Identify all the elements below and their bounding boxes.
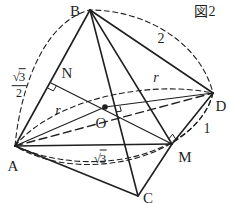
edge-label-bd: 2: [158, 32, 165, 46]
right-angle-mark-n: [48, 86, 56, 91]
radicand: 3: [19, 68, 26, 83]
edge-ac: [15, 146, 138, 196]
distance-label-an: √3 2: [12, 68, 27, 100]
circle-abd-dashed: [15, 10, 213, 162]
radicand: 3: [100, 150, 107, 165]
segment-od: [105, 93, 213, 107]
diagram-svg: [0, 0, 230, 203]
edge-md: [172, 93, 213, 144]
vertex-label-a: A: [8, 159, 19, 174]
vertex-label-b: B: [70, 4, 80, 19]
edge-label-am: √3: [94, 150, 107, 165]
vertex-label-n: N: [62, 66, 73, 81]
vertex-label-m: M: [178, 150, 191, 165]
vertex-label-c: C: [143, 191, 153, 204]
center-dot: [102, 104, 108, 110]
radius-label-right: r: [153, 71, 158, 85]
edge-label-dm: 1: [204, 122, 211, 136]
vertex-label-o: O: [96, 116, 107, 131]
denominator: 2: [12, 85, 27, 100]
right-angle-mark-o: [116, 106, 121, 111]
right-angle-mark-m: [169, 134, 176, 139]
radius-label-left: r: [55, 104, 60, 118]
figure-title: 図2: [194, 5, 217, 19]
vertex-label-d: D: [216, 99, 227, 114]
geometry-figure: 図2 B N A C D M O 2 1 r r √3 √3 2: [0, 0, 230, 203]
edge-am: [15, 144, 172, 146]
